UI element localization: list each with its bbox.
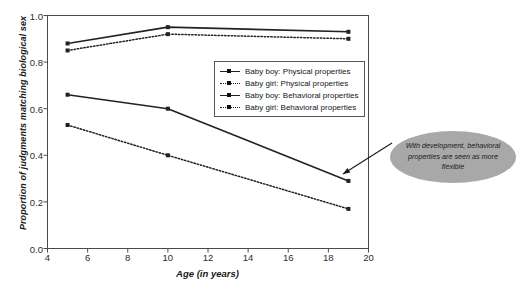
annotation-callout: With development, behavioral properties …: [390, 131, 516, 183]
chart-figure: Proportion of judgments matching biologi…: [0, 0, 520, 289]
annotation-text: With development, behavioral properties …: [390, 141, 516, 172]
